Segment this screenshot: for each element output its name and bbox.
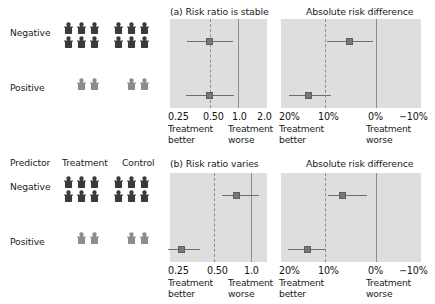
person-icon [113, 36, 124, 48]
chart-title-b-risk-difference: Absolute risk difference [306, 158, 413, 169]
row-label-negative-b: Negative [10, 181, 50, 192]
person-icon-cell [126, 190, 139, 204]
person-icon [139, 22, 150, 34]
xtick-a-rr-3: 2.0 [257, 111, 272, 122]
xtick-b-rr-2: 1.0 [244, 265, 259, 276]
person-icon [139, 78, 150, 90]
person-icon [126, 36, 137, 48]
person-icon [126, 22, 137, 34]
person-icon-cell [76, 176, 89, 190]
person-icon [126, 78, 137, 90]
icon-grid-positive-treatment-a [76, 78, 104, 94]
xtick-a-rr-2: 1.0 [232, 111, 247, 122]
figure-block-a: Negative Positive (a) Risk ratio is stab… [0, 0, 435, 150]
xtick-a-ard-2: 0% [368, 111, 383, 122]
person-icon [89, 78, 100, 90]
person-icon-cell [126, 176, 139, 190]
point-estimate-negative [233, 192, 240, 199]
person-icon [89, 22, 100, 34]
person-icon-cell [126, 22, 139, 36]
plot-area-b-risk-ratio [170, 173, 267, 262]
person-icon [126, 176, 137, 188]
chart-title-a-risk-ratio: (a) Risk ratio is stable [170, 6, 269, 17]
person-icon-cell [139, 232, 152, 246]
person-icon-cell [139, 22, 152, 36]
person-icon [76, 22, 87, 34]
footer-a-rr-left: Treatment better [168, 124, 213, 145]
person-icon-cell [139, 36, 152, 50]
point-estimate-positive [206, 92, 213, 99]
icon-grid-negative-treatment-a [63, 22, 104, 54]
person-icon [89, 232, 100, 244]
plot-area-b-risk-difference [281, 173, 421, 262]
person-icon-cell [76, 22, 89, 36]
footer-b-rr-left: Treatment better [168, 278, 213, 299]
chart-title-a-risk-difference: Absolute risk difference [306, 6, 413, 17]
footer-a-ard-left: Treatment better [279, 124, 324, 145]
confidence-interval-negative [328, 195, 367, 196]
footer-a-ard-right: Treatment worse [366, 124, 411, 145]
person-icon-cell [76, 78, 89, 92]
footer-b-ard-left: Treatment better [279, 278, 324, 299]
person-icon [63, 36, 74, 48]
person-icon [63, 22, 74, 34]
person-icon-cell [63, 190, 76, 204]
person-icon-cell [139, 190, 152, 204]
person-icon-cell [113, 190, 126, 204]
person-icon [139, 190, 150, 202]
person-icon-cell [76, 190, 89, 204]
footer-a-rr-right: Treatment worse [228, 124, 273, 145]
null-reference-line [251, 173, 252, 262]
column-header-predictor: Predictor [10, 157, 50, 168]
icon-grid-positive-control-b [126, 232, 154, 248]
person-icon-cell [126, 78, 139, 92]
xtick-b-rr-0: 0.25 [168, 265, 189, 276]
person-icon [139, 232, 150, 244]
chart-title-b-risk-ratio: (b) Risk ratio varies [170, 158, 259, 169]
null-reference-line [376, 173, 377, 262]
person-icon [89, 36, 100, 48]
plot-area-a-risk-difference [281, 19, 421, 108]
person-icon-cell [126, 232, 139, 246]
dashed-reference-line [214, 173, 215, 262]
xtick-b-rr-1: 0.50 [207, 265, 228, 276]
xtick-b-ard-0: 20% [279, 265, 300, 276]
point-estimate-positive [304, 246, 311, 253]
person-icon [113, 176, 124, 188]
person-icon [139, 36, 150, 48]
footer-b-ard-right: Treatment worse [366, 278, 411, 299]
point-estimate-negative [339, 192, 346, 199]
person-icon [76, 190, 87, 202]
person-icon [76, 36, 87, 48]
xtick-b-ard-1: 10% [318, 265, 339, 276]
person-icon-cell [89, 22, 102, 36]
column-header-control: Control [122, 157, 155, 168]
person-icon [76, 232, 87, 244]
person-icon-cell [76, 232, 89, 246]
person-icon [139, 176, 150, 188]
figure-root: Negative Positive (a) Risk ratio is stab… [0, 0, 435, 304]
person-icon [63, 176, 74, 188]
person-icon-cell [89, 232, 102, 246]
person-icon-cell [89, 190, 102, 204]
xtick-b-ard-3: −10% [399, 265, 428, 276]
person-icon [89, 176, 100, 188]
confidence-interval-negative [222, 195, 259, 196]
null-reference-line [238, 19, 239, 108]
pictogram-a: Negative Positive [0, 0, 168, 150]
person-icon-cell [113, 22, 126, 36]
person-icon-cell [89, 78, 102, 92]
icon-grid-negative-control-a [113, 22, 154, 54]
xtick-a-ard-3: −10% [399, 111, 428, 122]
person-icon-cell [89, 36, 102, 50]
person-icon-cell [113, 36, 126, 50]
person-icon-cell [63, 176, 76, 190]
plot-area-a-risk-ratio [170, 19, 267, 108]
person-icon [126, 190, 137, 202]
row-label-positive-a: Positive [10, 82, 45, 93]
row-label-negative-a: Negative [10, 27, 50, 38]
person-icon [76, 78, 87, 90]
column-header-treatment: Treatment [62, 157, 108, 168]
pictogram-b: Predictor Treatment Control Negative Pos… [0, 150, 168, 304]
point-estimate-positive [305, 92, 312, 99]
